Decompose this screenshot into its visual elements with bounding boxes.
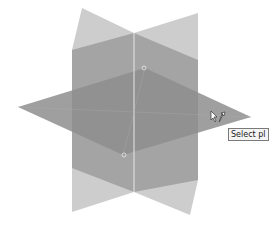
- move-cursor-icon: [210, 110, 226, 124]
- 3d-viewport[interactable]: Select pl: [0, 0, 272, 230]
- planes-scene[interactable]: [0, 0, 272, 230]
- tooltip: Select pl: [228, 128, 269, 141]
